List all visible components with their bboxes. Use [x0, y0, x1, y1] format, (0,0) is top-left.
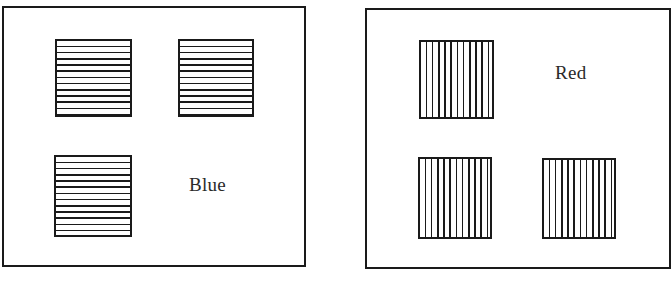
red-label: Red [555, 62, 587, 84]
horizontal-striped-square-top-left [55, 39, 132, 117]
vertical-striped-square-bottom-right [542, 158, 616, 239]
vertical-striped-square-top-left [419, 40, 494, 119]
horizontal-striped-square-top-right [178, 39, 254, 117]
blue-label: Blue [189, 174, 226, 196]
left-panel [2, 6, 306, 267]
right-panel [365, 8, 671, 269]
horizontal-striped-square-bottom-left [54, 155, 132, 237]
vertical-striped-square-bottom-left [418, 157, 492, 239]
